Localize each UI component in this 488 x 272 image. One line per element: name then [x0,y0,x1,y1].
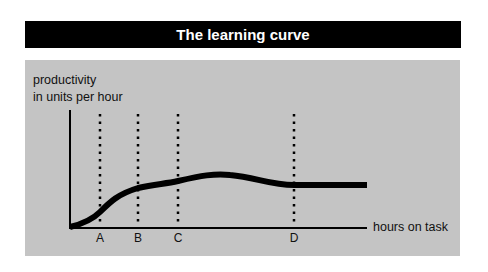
x-axis-label: hours on task [373,220,448,234]
marker-lines [100,114,294,226]
learning-curve-line [70,174,367,227]
marker-label-a: A [96,231,104,245]
marker-label-c: C [174,231,183,245]
marker-label-d: D [290,231,299,245]
marker-label-b: B [134,231,142,245]
